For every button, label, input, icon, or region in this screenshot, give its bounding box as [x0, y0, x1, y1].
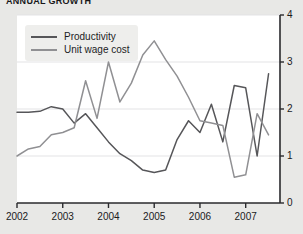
- series-line-productivity: [17, 74, 269, 173]
- x-tick-label: 2007: [226, 211, 266, 222]
- x-tick-label: 2002: [0, 211, 37, 222]
- x-tick-label: 2004: [88, 211, 128, 222]
- y-tick-label: 2: [287, 103, 301, 114]
- chart-legend: Productivity Unit wage cost: [25, 25, 138, 61]
- y-tick-label: 4: [287, 9, 301, 20]
- y-tick-label: 3: [287, 56, 301, 67]
- x-tick-label: 2005: [134, 211, 174, 222]
- x-tick-label: 2003: [43, 211, 83, 222]
- legend-item-unit-wage-cost: Unit wage cost: [31, 43, 130, 56]
- y-tick-label: 0: [287, 197, 301, 208]
- x-tick-label: 2006: [180, 211, 220, 222]
- chart-container: ANNUAL GROWTH 01234 20022003200420052006…: [0, 0, 303, 234]
- legend-item-productivity: Productivity: [31, 30, 130, 43]
- legend-label-unit-wage-cost: Unit wage cost: [64, 44, 130, 55]
- legend-swatch-productivity: [31, 36, 57, 38]
- y-tick-label: 1: [287, 150, 301, 161]
- legend-label-productivity: Productivity: [64, 31, 116, 42]
- legend-swatch-unit-wage-cost: [31, 49, 57, 51]
